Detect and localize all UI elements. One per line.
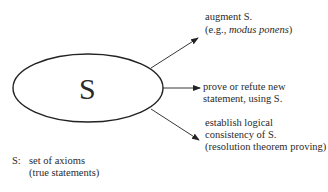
legend-key: S: [12, 155, 21, 167]
branch-prove-line1: prove or refute new [203, 81, 286, 93]
arrow-consistency [151, 109, 199, 140]
legend-line2: (true statements) [29, 167, 99, 179]
legend-line1: set of axioms [29, 155, 85, 167]
branch-consistency-line3: (resolution theorem proving) [205, 141, 326, 153]
branch-prove-line2: statement, using S. [203, 93, 282, 105]
branch-augment-line2: (e.g., modus ponens) [205, 24, 292, 36]
branch-augment-example: modus ponens [229, 24, 289, 35]
branch-augment-suffix: ) [289, 24, 293, 35]
branch-consistency-line1: establish logical [205, 117, 273, 129]
branch-consistency-line2: consistency of S. [205, 129, 276, 141]
branch-augment-line1: augment S. [205, 11, 252, 23]
branch-augment-prefix: (e.g., [205, 24, 229, 35]
arrow-augment [151, 38, 198, 68]
center-node-label: S [79, 74, 96, 104]
